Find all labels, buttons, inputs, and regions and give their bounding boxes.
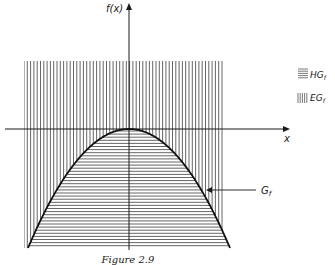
legend: HGf EGf [298,69,327,104]
y-axis-label: f(x) [106,3,123,14]
epigraph-hatch [24,61,222,248]
legend-hypograph-swatch [298,69,308,78]
x-axis-arrow-icon [283,126,290,132]
legend-epigraph-swatch [298,93,307,103]
figure-caption: Figure 2.9 [101,254,155,265]
figure-canvas: f(x) x Gf HGf EGf Figure 2.9 [0,0,335,265]
y-axis-arrow-icon [126,3,132,10]
x-axis-label: x [283,133,290,144]
curve-label: Gf [261,185,273,198]
legend-epigraph-label: EGf [310,93,326,104]
legend-hypograph-label: HGf [310,70,327,81]
